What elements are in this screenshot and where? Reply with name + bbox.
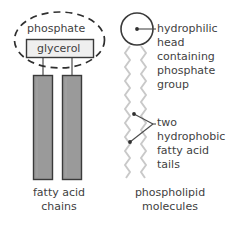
caption-left-line-2: chains <box>9 200 109 214</box>
annot-head-line-2: head <box>157 36 231 50</box>
leader-dot-tail-lower <box>128 140 132 144</box>
caption-phospholipid-molecules: phospholipid molecules <box>116 186 224 213</box>
caption-right-line-2: molecules <box>116 200 224 214</box>
caption-left-line-1: fatty acid <box>9 186 109 200</box>
annot-tails-line-1: two <box>157 116 231 130</box>
annot-head-line-4: phosphate <box>157 64 231 78</box>
phosphate-label: phosphate <box>27 23 85 34</box>
fatty-acid-tail-left <box>125 46 130 178</box>
caption-right-line-1: phospholipid <box>116 186 224 200</box>
annot-tails-line-4: tails <box>157 158 231 172</box>
fatty-acid-tail-right <box>141 46 146 178</box>
fatty-acid-bar-right <box>63 76 82 180</box>
annotation-hydrophobic-tails: two hydrophobic fatty acid tails <box>157 116 231 172</box>
fatty-acid-bars <box>34 76 82 180</box>
annot-tails-line-2: hydrophobic <box>157 130 231 144</box>
annot-tails-line-3: fatty acid <box>157 144 231 158</box>
fatty-acid-tails <box>125 46 146 178</box>
leader-dot-head <box>135 27 139 31</box>
phospholipid-diagram: phosphate glycerol fatty acid chains pho… <box>0 0 231 229</box>
glycerol-label: glycerol <box>37 43 80 54</box>
annot-head-line-5: group <box>157 78 231 92</box>
leader-dot-tail-upper <box>132 112 136 116</box>
fatty-acid-bar-left <box>34 76 53 180</box>
annotation-hydrophilic-head: hydrophilic head containing phosphate gr… <box>157 22 231 92</box>
caption-fatty-acid-chains: fatty acid chains <box>9 186 109 213</box>
glycerol-to-chain-connectors <box>43 57 72 76</box>
annot-head-line-3: containing <box>157 50 231 64</box>
annot-head-line-1: hydrophilic <box>157 22 231 36</box>
